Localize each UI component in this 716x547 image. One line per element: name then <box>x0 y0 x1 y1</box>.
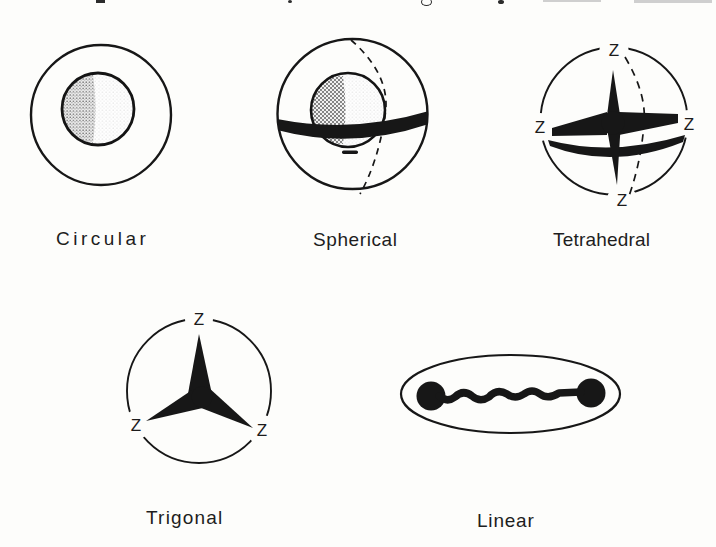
tetrahedral-z-left: Z <box>535 118 545 137</box>
clipped-text-fragment <box>634 0 712 3</box>
spherical-small-dash <box>342 151 358 154</box>
tetrahedral-z-bottom: Z <box>617 191 627 210</box>
clipped-text-fragment <box>498 0 504 4</box>
trigonal-z-top: Z <box>194 310 204 329</box>
tetrahedral-z-top: Z <box>609 41 619 60</box>
figure-trigonal: Z Z Z <box>118 300 283 478</box>
caption-spherical: Spherical <box>313 230 398 249</box>
figure-linear <box>395 348 630 443</box>
clipped-text-fragment <box>543 0 601 2</box>
linear-diagram <box>395 348 630 443</box>
trigonal-z-lower-right: Z <box>257 421 267 440</box>
tetrahedral-left-arm <box>552 112 607 136</box>
diagram-canvas: Circular <box>0 0 716 547</box>
caption-trigonal: Trigonal <box>146 508 224 527</box>
clipped-text-fragment <box>96 0 105 3</box>
spherical-diagram <box>265 30 445 210</box>
tetrahedral-center-node <box>602 112 625 135</box>
caption-circular: Circular <box>56 229 149 248</box>
tetrahedral-z-right: Z <box>684 115 694 134</box>
trigonal-diagram: Z Z Z <box>118 300 283 478</box>
trigonal-center-node <box>192 387 213 408</box>
figure-tetrahedral: Z Z Z Z <box>525 30 715 212</box>
figure-spherical <box>265 30 445 210</box>
figure-circular <box>15 30 185 210</box>
trigonal-z-lower-left: Z <box>131 416 141 435</box>
circular-diagram <box>15 30 185 210</box>
tetrahedral-diagram: Z Z Z Z <box>525 30 715 212</box>
tetrahedral-right-arm <box>619 112 678 135</box>
clipped-text-fragment <box>288 0 292 3</box>
linear-wavy-bond <box>439 391 581 400</box>
caption-tetrahedral: Tetrahedral <box>553 230 650 249</box>
caption-linear: Linear <box>477 511 535 530</box>
clipped-text-fragment <box>421 0 432 6</box>
